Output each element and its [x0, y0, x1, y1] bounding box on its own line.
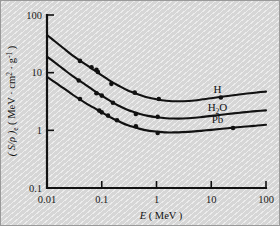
data-point — [99, 93, 104, 98]
curve-H2O — [47, 57, 266, 119]
data-point — [109, 82, 114, 87]
axis-lines — [47, 15, 266, 188]
data-point — [76, 78, 81, 83]
x-tick-label: 10 — [206, 194, 217, 205]
y-axis-title: ( S/ρ )e ( MeV · cm2 · g-1 ) — [5, 45, 20, 156]
data-point — [219, 95, 224, 100]
curve-Pb — [47, 77, 266, 133]
x-axis-title: E ( MeV ) — [139, 210, 183, 222]
chart-figure: 1001010.1 0.010.1110100 HH2OPb E ( MeV )… — [1, 1, 279, 225]
y-tick-label: 0.1 — [29, 183, 42, 194]
y-tick-label: 1 — [37, 125, 42, 136]
figure-panel: 1001010.1 0.010.1110100 HH2OPb E ( MeV )… — [0, 0, 280, 226]
data-point — [94, 91, 99, 96]
curve-label-H: H — [214, 83, 222, 95]
data-point — [89, 65, 94, 70]
y-axis-tick-labels: 1001010.1 — [26, 10, 42, 194]
y-tick-label: 10 — [32, 67, 43, 78]
y-tick-label: 100 — [26, 10, 42, 21]
data-point — [132, 90, 137, 95]
curve-labels: HH2OPb — [208, 83, 228, 125]
data-point — [134, 112, 139, 117]
x-axis-tick-labels: 0.010.1110100 — [38, 194, 274, 205]
x-tick-label: 0.1 — [95, 194, 108, 205]
data-point — [78, 59, 83, 64]
data-point — [111, 101, 116, 106]
data-point — [155, 114, 160, 119]
curve-label-Pb: Pb — [212, 113, 224, 125]
data-point — [156, 97, 161, 102]
log-log-plot: 1001010.1 0.010.1110100 HH2OPb E ( MeV )… — [1, 1, 280, 226]
data-point — [115, 118, 120, 123]
x-tick-label: 1 — [154, 194, 159, 205]
data-point — [78, 97, 83, 102]
data-point — [155, 131, 160, 136]
data-point — [134, 124, 139, 129]
data-point — [96, 70, 101, 75]
data-point — [99, 110, 104, 115]
data-point — [106, 113, 111, 118]
curve-H — [47, 35, 266, 101]
x-tick-label: 100 — [258, 194, 274, 205]
data-point — [231, 126, 236, 131]
x-tick-label: 0.01 — [38, 194, 56, 205]
